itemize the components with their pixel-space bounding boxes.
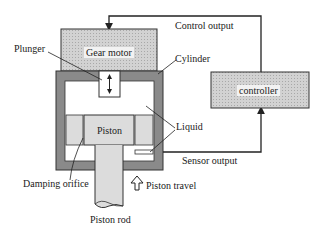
- piston-rod: [95, 145, 123, 208]
- piston-rod-label: Piston rod: [90, 214, 131, 225]
- plunger: [99, 71, 120, 97]
- damping-orifice-label: Damping orifice: [23, 178, 89, 189]
- control-output-label: Control output: [175, 20, 234, 31]
- piston-label: Piston: [95, 125, 124, 136]
- plunger-label: Plunger: [14, 43, 45, 54]
- controller-label: controller: [237, 85, 280, 96]
- piston-travel-label: Piston travel: [146, 180, 196, 191]
- sensor-output-label: Sensor output: [182, 155, 237, 166]
- cylinder-label: Cylinder: [175, 53, 210, 64]
- gear-motor-label: Gear motor: [84, 47, 134, 58]
- liquid-label: Liquid: [176, 121, 203, 132]
- piston-travel-arrow-icon: [131, 176, 143, 190]
- diagram-canvas: [0, 0, 324, 237]
